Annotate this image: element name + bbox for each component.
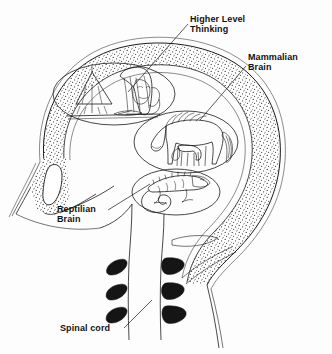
vertebra-left-2 [106, 284, 127, 300]
mammalian-brain-line2: Brain [248, 62, 272, 72]
brain-base-left [100, 204, 132, 228]
horse-figure [151, 112, 232, 166]
reptilian-brain-line2: Brain [57, 214, 81, 224]
vertebra-left-3 [106, 307, 127, 323]
brainstem-right-wall [160, 214, 164, 340]
diagram-canvas: Higher Level Thinking Mammalian Brain Re… [0, 0, 332, 354]
neck-back-line-2 [211, 289, 223, 348]
label-higher-level-thinking: Higher Level Thinking [190, 14, 248, 34]
mammalian-brain-region [134, 111, 238, 173]
horse-body [166, 120, 223, 164]
vertebra-right-3 [162, 306, 186, 324]
vertebra-left-1 [106, 259, 127, 275]
horse-mane [166, 112, 206, 126]
girl-reading-figure [114, 67, 160, 115]
lizard-front-leg [182, 189, 193, 202]
girl-arm [126, 99, 160, 114]
lizard-figure [142, 172, 210, 213]
vertebra-right-1 [162, 258, 185, 275]
horse-tail [222, 132, 233, 162]
foal-figure [172, 145, 201, 166]
lizard-head [192, 176, 210, 187]
reptilian-brain-line1: Reptilian [57, 204, 96, 214]
girl-eye-left [137, 87, 143, 89]
brainstem-left-wall [128, 204, 132, 340]
higher-level-thinking-line1: Higher Level [190, 14, 245, 24]
mammalian-brain-line1: Mammalian [248, 52, 298, 62]
label-reptilian-brain: Reptilian Brain [57, 204, 99, 224]
lizard-crest [153, 172, 191, 184]
leader-reptilian-brain [108, 184, 150, 210]
lizard-hind-leg [154, 191, 167, 204]
label-spinal-cord: Spinal cord [60, 323, 110, 333]
brainstem [100, 204, 236, 348]
lizard-scales [158, 179, 184, 192]
higher-level-thinking-line2: Thinking [190, 24, 228, 34]
vertebra-right-2 [162, 283, 185, 300]
triune-brain-illustration: Higher Level Thinking Mammalian Brain Re… [0, 0, 332, 354]
desk-edge [68, 117, 158, 119]
horse-muzzle [152, 146, 161, 148]
lizard-body [148, 175, 208, 192]
reptilian-brain-region [132, 169, 220, 215]
girl-mouth [139, 97, 148, 99]
label-mammalian-brain: Mammalian Brain [248, 52, 301, 72]
